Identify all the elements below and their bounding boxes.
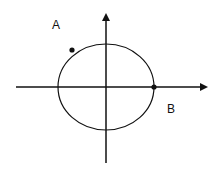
y-axis-arrow-icon (102, 13, 110, 21)
point-b-label: B (167, 103, 175, 115)
diagram-canvas (0, 0, 217, 171)
point-b-dot (151, 84, 156, 89)
point-a-dot (69, 47, 74, 52)
x-axis-arrow-icon (200, 83, 208, 91)
point-a-label: A (52, 19, 60, 31)
